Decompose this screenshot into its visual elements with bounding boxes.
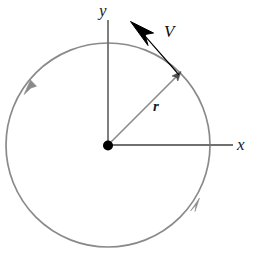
y-axis-label: y	[99, 2, 107, 19]
origin-dot	[103, 141, 113, 151]
velocity-vector-label: V	[164, 23, 174, 40]
circular-motion-figure: y x V r	[0, 0, 263, 255]
radius-line	[108, 74, 179, 145]
radius-label: r	[153, 99, 159, 114]
rotation-direction-arrow-left	[24, 80, 37, 95]
rotation-direction-arrow-bottom-right	[191, 198, 200, 212]
x-axis-label: x	[237, 136, 245, 153]
diagram-canvas	[0, 0, 263, 255]
